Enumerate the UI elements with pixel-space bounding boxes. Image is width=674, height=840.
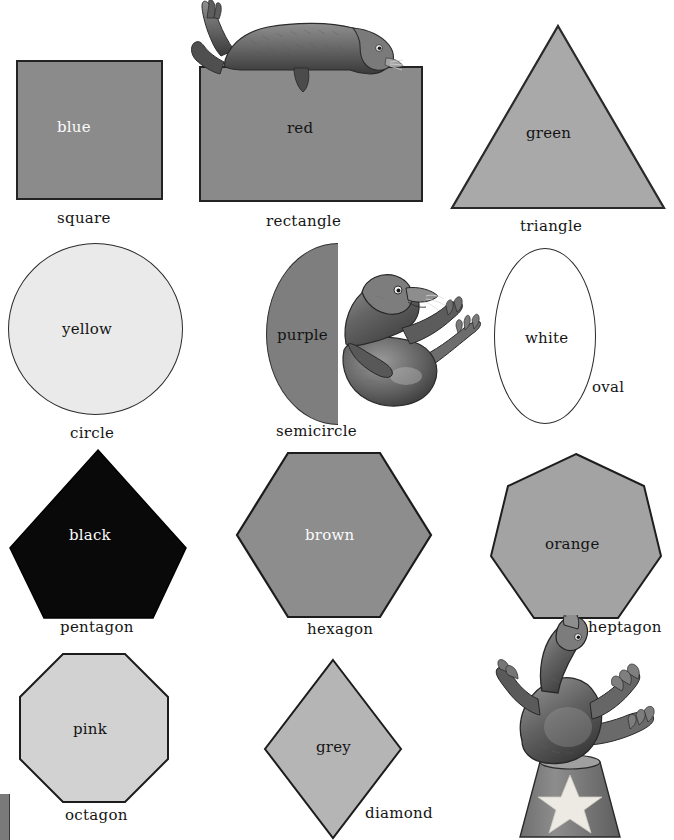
shape-cell-semicircle[interactable]: purple semicircle	[250, 230, 480, 440]
color-word-black: black	[69, 526, 111, 544]
color-word-yellow: yellow	[62, 320, 112, 338]
color-word-blue: blue	[57, 118, 91, 136]
seal-balancing-on-drum	[460, 615, 674, 840]
shape-label-oval: oval	[592, 378, 624, 396]
shape-cell-octagon[interactable]: pink octagon	[0, 640, 230, 840]
shape-cell-pentagon[interactable]: black pentagon	[0, 440, 230, 640]
color-word-green: green	[526, 124, 571, 142]
shape-cell-circle[interactable]: yellow circle	[0, 230, 230, 440]
shape-label-diamond: diamond	[365, 804, 433, 822]
seal-lying-on-rectangle	[190, 0, 405, 98]
shape-label-rectangle: rectangle	[266, 212, 341, 230]
shape-cell-rectangle[interactable]: red rectangle	[190, 0, 435, 235]
color-word-grey: grey	[316, 738, 351, 756]
illustration-cell-seal-on-drum	[460, 615, 674, 840]
shape-label-pentagon: pentagon	[60, 618, 134, 636]
shape-cell-oval[interactable]: white oval	[470, 230, 674, 430]
color-word-orange: orange	[545, 535, 599, 553]
color-word-brown: brown	[305, 526, 354, 544]
seal-sitting-beside-semicircle	[322, 272, 482, 417]
color-word-purple: purple	[277, 326, 328, 344]
shape-cell-diamond[interactable]: grey diamond	[230, 640, 460, 840]
color-word-red: red	[287, 119, 313, 137]
shape-label-octagon: octagon	[65, 806, 128, 824]
shape-cell-heptagon[interactable]: orange heptagon	[470, 440, 674, 640]
page-edge-artifact	[0, 794, 10, 840]
triangle-shape[interactable]	[448, 22, 668, 212]
color-word-pink: pink	[73, 720, 107, 738]
shapes-colors-poster: blue square	[0, 0, 674, 840]
shape-label-square: square	[57, 209, 111, 227]
shape-label-hexagon: hexagon	[307, 620, 373, 638]
shape-cell-triangle[interactable]: green triangle	[440, 0, 674, 240]
color-word-white: white	[525, 329, 568, 347]
shape-label-semicircle: semicircle	[276, 422, 357, 440]
shape-cell-hexagon[interactable]: brown hexagon	[230, 440, 450, 640]
